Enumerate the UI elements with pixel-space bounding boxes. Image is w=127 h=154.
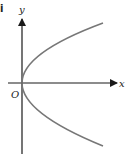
x-axis-label: x — [119, 78, 125, 89]
y-axis-label: y — [18, 4, 25, 15]
origin-label: O — [11, 89, 19, 100]
parabola-curve — [22, 23, 103, 146]
part-label: i — [0, 3, 3, 14]
parabola-diagram: i y x O — [0, 0, 127, 154]
